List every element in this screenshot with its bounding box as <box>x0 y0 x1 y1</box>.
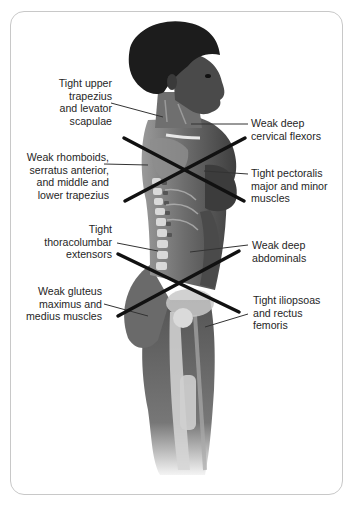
label-tight-pectoralis: Tight pectoralis major and minor muscles <box>251 167 328 205</box>
label-weak-deep-cervical-flexors: Weak deep cervical flexors <box>251 117 321 142</box>
leader-rhomboids <box>104 164 148 165</box>
label-tight-thoracolumbar-extensors: Tight thoracolumbar extensors <box>30 223 112 261</box>
head-illustration <box>129 21 225 114</box>
label-weak-rhomboids: Weak rhomboids, serratus anterior, and m… <box>10 151 109 202</box>
label-weak-deep-abdominals: Weak deep abdominals <box>252 239 306 264</box>
leader-upper-trap <box>111 103 163 117</box>
torso-illustration <box>142 118 237 290</box>
label-tight-upper-trapezius: Tight upper trapezius and levator scapul… <box>40 77 112 128</box>
label-tight-iliopsoas: Tight iliopsoas and rectus femoris <box>253 294 320 332</box>
label-weak-gluteus: Weak gluteus maximus and medius muscles <box>10 285 102 323</box>
